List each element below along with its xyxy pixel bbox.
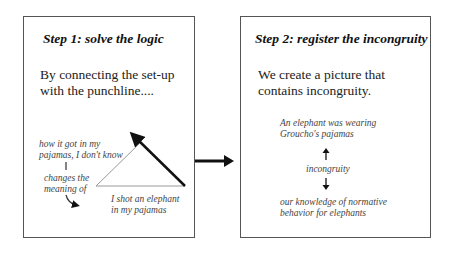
curved-arrow-icon (66, 195, 76, 205)
up-arrow-icon (323, 148, 330, 160)
down-arrow-icon (323, 178, 330, 190)
triangle-icon (96, 143, 185, 186)
punchline-arrow-icon (135, 137, 185, 186)
step-transition-arrowhead-icon (224, 155, 234, 167)
diagram-graphics (0, 0, 451, 254)
